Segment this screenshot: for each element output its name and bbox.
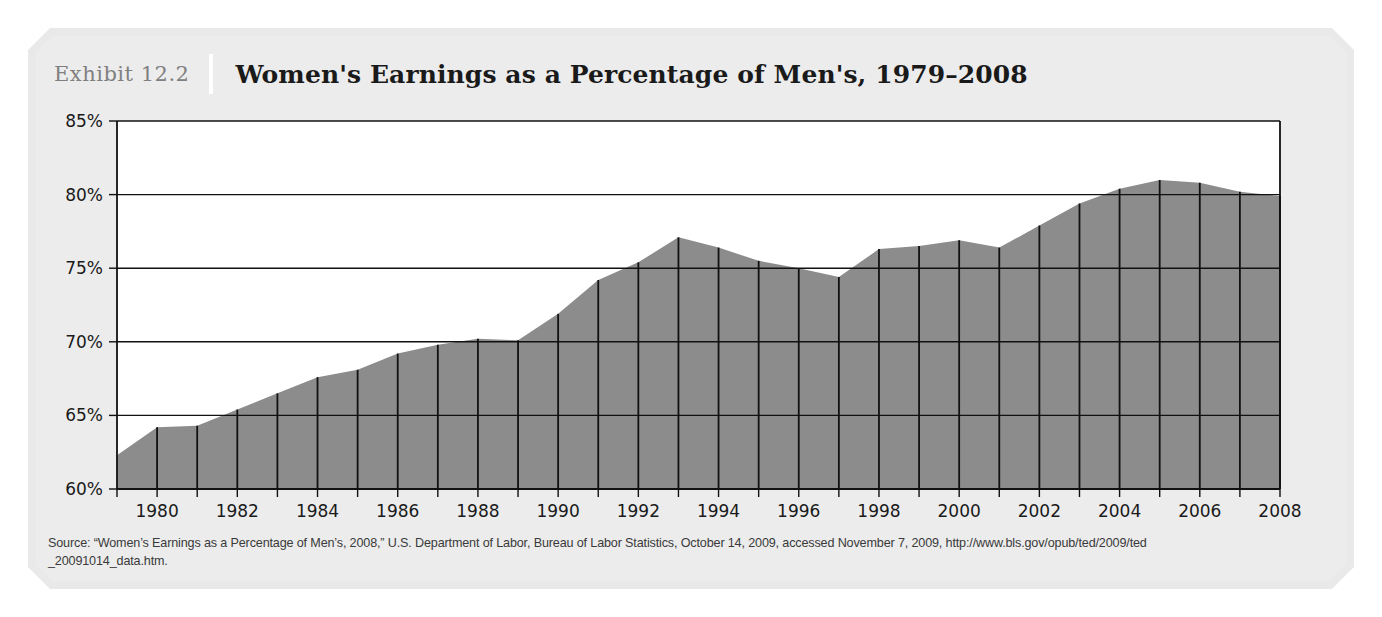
x-axis-label-1988: 1988 xyxy=(443,501,513,521)
y-axis-label-85: 85% xyxy=(47,111,103,131)
x-axis-label-1986: 1986 xyxy=(363,501,433,521)
x-axis-label-1996: 1996 xyxy=(764,501,834,521)
source-note-line-1: Source: “Women’s Earnings as a Percentag… xyxy=(48,536,1147,550)
x-axis-label-2000: 2000 xyxy=(924,501,994,521)
y-axis-label-60: 60% xyxy=(47,479,103,499)
chart-area: 85%80%75%70%65%60%1980198219841986198819… xyxy=(0,0,1382,520)
exhibit-figure: Exhibit 12.2 Women's Earnings as a Perce… xyxy=(0,0,1382,617)
x-axis-label-1992: 1992 xyxy=(603,501,673,521)
y-axis-label-65: 65% xyxy=(47,405,103,425)
x-axis-label-1994: 1994 xyxy=(684,501,754,521)
x-axis-label-1998: 1998 xyxy=(844,501,914,521)
x-axis-label-2008: 2008 xyxy=(1245,501,1315,521)
x-axis-label-1982: 1982 xyxy=(202,501,272,521)
x-axis-label-1984: 1984 xyxy=(283,501,353,521)
x-axis-label-2004: 2004 xyxy=(1085,501,1155,521)
x-axis-label-1980: 1980 xyxy=(122,501,192,521)
x-axis-label-2006: 2006 xyxy=(1165,501,1235,521)
y-axis-label-80: 80% xyxy=(47,185,103,205)
source-note: Source: “Women’s Earnings as a Percentag… xyxy=(48,534,1338,570)
y-axis-label-70: 70% xyxy=(47,332,103,352)
x-axis-label-2002: 2002 xyxy=(1004,501,1074,521)
area-chart xyxy=(0,0,1382,520)
source-note-line-2: _20091014_data.htm. xyxy=(48,554,168,568)
x-axis-label-1990: 1990 xyxy=(523,501,593,521)
y-axis-label-75: 75% xyxy=(47,258,103,278)
